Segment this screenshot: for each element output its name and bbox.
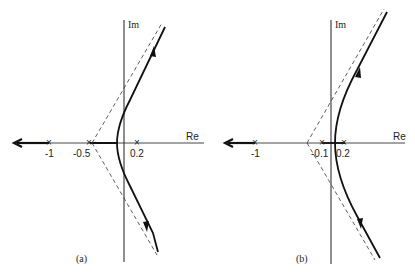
pole-marker-b-neg1: ×: [252, 137, 258, 148]
real-axis-label: Re: [393, 131, 406, 142]
asymptote-upper-a: [92, 23, 162, 143]
tick-label: -0.5: [73, 148, 91, 159]
panel-a: × × × -1 -0.5 0.2 Re Im (a): [14, 19, 204, 265]
panel-b: × × × -1 -0.1 0.2 Re Im (b): [225, 9, 406, 265]
pole-marker-a-neg05: ×: [86, 137, 92, 148]
asymptote-lower-b: [307, 143, 375, 260]
imag-axis-label: Im: [128, 19, 139, 30]
arrow-down-icon: [143, 221, 149, 232]
pole-marker-a-neg1: ×: [46, 137, 52, 148]
panel-caption: (a): [76, 253, 87, 265]
tick-label: -1: [251, 148, 260, 159]
real-axis-label: Re: [186, 131, 199, 142]
root-locus-figure: × × × -1 -0.5 0.2 Re Im (a) × × ×: [0, 0, 415, 275]
pole-marker-a-02: ×: [134, 137, 140, 148]
panel-caption: (b): [296, 253, 308, 265]
pole-marker-b-neg01: ×: [319, 137, 325, 148]
imag-axis-label: Im: [335, 19, 346, 30]
tick-label: -1: [45, 148, 54, 159]
pole-marker-b-02: ×: [341, 137, 347, 148]
tick-label: 0.2: [130, 148, 144, 159]
tick-label: -0.1: [311, 148, 329, 159]
tick-label: 0.2: [336, 148, 350, 159]
